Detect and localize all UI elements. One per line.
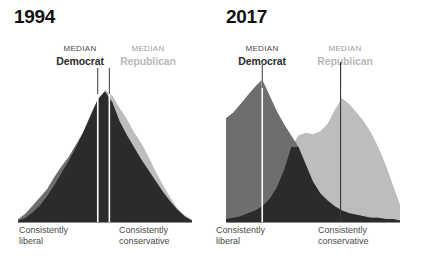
- distribution-chart-2017: [208, 0, 421, 230]
- axis-label-line2: conservative: [119, 236, 170, 247]
- axis-label-line1: Consistently: [19, 225, 68, 236]
- axis-label-line1: Consistently: [119, 225, 170, 236]
- axis-label-line2: liberal: [216, 236, 265, 247]
- axis-label-line1: Consistently: [216, 225, 265, 236]
- axis-label-line2: conservative: [318, 236, 369, 247]
- panel-2017: 2017 MEDIAN Democrat MEDIAN Republican C…: [208, 0, 421, 267]
- panel-1994: 1994 MEDIAN Democrat MEDIAN Republican: [0, 0, 205, 267]
- axis-label-line1: Consistently: [318, 225, 369, 236]
- overlap-area-1994: [18, 91, 192, 222]
- axis-label-consistently-conservative-1994: Consistently conservative: [119, 225, 170, 247]
- polarization-figure: 1994 MEDIAN Democrat MEDIAN Republican: [0, 0, 421, 267]
- distribution-chart-1994: [0, 0, 205, 230]
- axis-label-consistently-liberal-2017: Consistently liberal: [216, 225, 265, 247]
- axis-label-consistently-liberal-1994: Consistently liberal: [19, 225, 68, 247]
- axis-label-line2: liberal: [19, 236, 68, 247]
- axis-label-consistently-conservative-2017: Consistently conservative: [318, 225, 369, 247]
